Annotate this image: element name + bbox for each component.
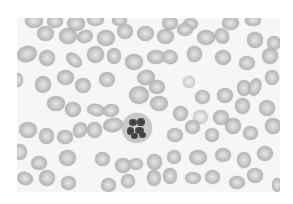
red-blood-cell bbox=[215, 50, 231, 65]
red-blood-cell bbox=[129, 158, 143, 170]
red-blood-cell bbox=[59, 28, 77, 44]
red-blood-cell bbox=[121, 174, 135, 188]
blood-smear-micrograph: Grayscale blood smear micrograph: red bl… bbox=[17, 18, 280, 192]
red-blood-cell bbox=[237, 152, 251, 168]
red-blood-cell bbox=[150, 96, 168, 111]
red-blood-cell bbox=[35, 76, 51, 93]
red-blood-cell bbox=[37, 26, 54, 41]
red-blood-cell bbox=[102, 116, 124, 133]
red-blood-cell bbox=[235, 98, 250, 114]
red-blood-cell bbox=[257, 146, 273, 161]
red-blood-cell bbox=[39, 50, 55, 66]
red-blood-cell bbox=[160, 48, 180, 67]
red-blood-cell bbox=[177, 23, 193, 36]
red-blood-cell bbox=[149, 80, 165, 94]
nucleus-lobe bbox=[131, 133, 138, 139]
nucleus-lobe bbox=[129, 119, 137, 126]
red-blood-cell bbox=[17, 73, 23, 87]
red-blood-cell bbox=[39, 170, 55, 186]
red-blood-cell bbox=[107, 48, 121, 64]
neutrophil-cell bbox=[122, 113, 152, 143]
red-blood-cell bbox=[17, 144, 27, 160]
red-blood-cell bbox=[87, 46, 104, 63]
red-blood-cell bbox=[167, 150, 181, 164]
red-blood-cell bbox=[59, 150, 76, 166]
red-blood-cell bbox=[61, 176, 76, 190]
red-blood-cell bbox=[197, 30, 215, 45]
red-blood-cell bbox=[99, 72, 115, 87]
red-blood-cell bbox=[125, 54, 143, 70]
red-blood-cell bbox=[205, 128, 219, 142]
red-blood-cell bbox=[225, 118, 241, 134]
red-blood-cell bbox=[187, 46, 202, 62]
red-blood-cell bbox=[195, 90, 210, 104]
red-blood-cell bbox=[95, 152, 110, 166]
red-blood-cell bbox=[57, 130, 73, 144]
red-blood-cell bbox=[63, 50, 85, 71]
red-blood-cell bbox=[189, 150, 207, 165]
red-blood-cell bbox=[243, 126, 258, 140]
red-blood-cell bbox=[246, 76, 263, 97]
red-blood-cell bbox=[97, 30, 115, 46]
red-blood-cell bbox=[75, 78, 91, 93]
red-blood-cell bbox=[17, 170, 35, 188]
red-blood-cell bbox=[259, 100, 275, 116]
red-blood-cell bbox=[167, 128, 183, 142]
red-blood-cell bbox=[185, 172, 201, 184]
red-blood-cell bbox=[101, 178, 116, 192]
red-blood-cell bbox=[47, 96, 65, 111]
red-blood-cell bbox=[262, 48, 278, 64]
red-blood-cell bbox=[205, 170, 220, 184]
red-blood-cell bbox=[217, 88, 233, 103]
red-blood-cell bbox=[239, 56, 255, 70]
red-blood-cell bbox=[65, 102, 81, 117]
red-blood-cell bbox=[183, 76, 195, 88]
red-blood-cell bbox=[173, 106, 188, 121]
nucleus-lobe bbox=[137, 118, 145, 126]
red-blood-cell bbox=[163, 168, 177, 184]
red-blood-cell bbox=[147, 170, 161, 186]
nucleus-lobe bbox=[139, 132, 146, 138]
red-blood-cell bbox=[39, 128, 54, 144]
red-blood-cell bbox=[247, 32, 263, 48]
red-blood-cell bbox=[147, 154, 162, 170]
red-blood-cell bbox=[17, 43, 39, 65]
red-blood-cell bbox=[265, 70, 279, 85]
red-blood-cell bbox=[245, 18, 261, 26]
red-blood-cell bbox=[215, 148, 231, 162]
red-blood-cell bbox=[185, 120, 200, 134]
red-blood-cell bbox=[247, 168, 263, 183]
red-blood-cell bbox=[137, 26, 154, 41]
red-blood-cell bbox=[117, 24, 133, 39]
red-blood-cell bbox=[157, 29, 174, 44]
red-blood-cell bbox=[229, 176, 245, 189]
red-blood-cell bbox=[265, 118, 280, 134]
red-blood-cell bbox=[272, 178, 280, 192]
red-blood-cell bbox=[19, 122, 37, 138]
red-blood-cell bbox=[57, 70, 74, 85]
red-blood-cell bbox=[87, 122, 102, 138]
red-blood-cell bbox=[102, 103, 120, 119]
red-blood-cell bbox=[31, 156, 47, 170]
red-blood-cell bbox=[129, 86, 149, 104]
red-blood-cell bbox=[87, 18, 104, 26]
